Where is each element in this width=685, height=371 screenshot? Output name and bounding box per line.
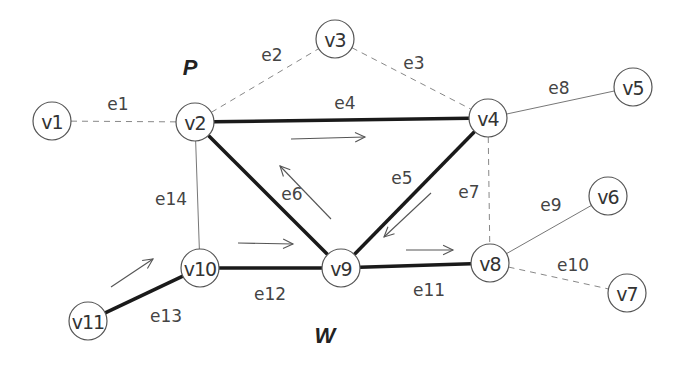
edge-e14 — [196, 141, 200, 249]
node-label: v7 — [616, 283, 637, 305]
edge-label-e14: e14 — [155, 189, 187, 209]
node-v7: v7 — [608, 274, 646, 312]
node-v11: v11 — [69, 302, 107, 340]
node-v2: v2 — [176, 103, 214, 141]
edge-label-e7: e7 — [458, 182, 479, 202]
arrow-e4-icon — [291, 132, 365, 142]
edge-label-e8: e8 — [548, 78, 569, 98]
edge-label-e9: e9 — [540, 195, 561, 215]
region-label-w: W — [315, 323, 338, 348]
node-label: v8 — [479, 253, 500, 275]
node-v3: v3 — [316, 20, 354, 58]
node-label: v10 — [184, 258, 216, 280]
node-v10: v10 — [181, 249, 219, 287]
node-v5: v5 — [614, 68, 652, 106]
edge-label-e12: e12 — [254, 284, 286, 304]
edge-e5 — [354, 132, 474, 255]
edge-label-e3: e3 — [403, 53, 424, 73]
region-label-p: P — [183, 55, 198, 80]
edge-e6 — [208, 135, 327, 254]
node-label: v1 — [41, 111, 62, 133]
arrow-e13-icon — [111, 259, 153, 287]
node-label: v3 — [324, 29, 345, 51]
edge-label-e13: e13 — [150, 306, 182, 326]
node-label: v5 — [622, 77, 643, 99]
node-v6: v6 — [589, 177, 627, 215]
edge-e1 — [71, 121, 176, 122]
edge-label-e6: e6 — [281, 184, 302, 204]
node-label: v2 — [184, 112, 205, 134]
edge-e4 — [214, 118, 469, 121]
node-label: v11 — [72, 311, 104, 333]
nodes-layer: v1v2v3v4v5v6v7v8v9v10v11 — [33, 20, 652, 340]
node-v1: v1 — [33, 102, 71, 140]
edge-label-e4: e4 — [334, 93, 355, 113]
node-label: v4 — [477, 108, 499, 130]
arrow-e12-icon — [238, 239, 293, 249]
arrow-e11-icon — [406, 245, 453, 255]
edge-e7 — [488, 137, 489, 244]
edge-label-e11: e11 — [413, 280, 445, 300]
edge-label-e1: e1 — [107, 94, 128, 114]
edge-label-e2: e2 — [261, 45, 282, 65]
edge-e11 — [360, 264, 471, 268]
graph-diagram: v1v2v3v4v5v6v7v8v9v10v11 e1e2e3e4e5e6e7e… — [0, 0, 685, 371]
node-v4: v4 — [469, 99, 507, 137]
edge-label-e5: e5 — [391, 168, 412, 188]
node-v8: v8 — [471, 244, 509, 282]
node-label: v9 — [330, 258, 351, 280]
node-v9: v9 — [322, 249, 360, 287]
node-label: v6 — [597, 186, 618, 208]
edge-label-e10: e10 — [557, 255, 589, 275]
